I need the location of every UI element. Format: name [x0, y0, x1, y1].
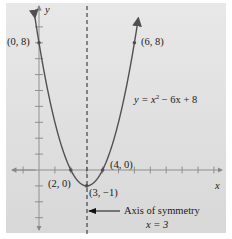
equation-label: y = x2 − 6x + 8	[133, 93, 197, 105]
point-label-2-0: (2, 0)	[48, 178, 71, 190]
data-point	[69, 168, 73, 172]
y-axis-label: y	[44, 4, 50, 15]
point-label-3-neg1: (3, −1)	[89, 187, 118, 199]
point-label-4-0: (4, 0)	[110, 159, 133, 171]
parabola-chart: y x (0, 8) (6, 8) (2, 0) (4, 0) (3, −1) …	[0, 0, 232, 239]
data-point	[101, 168, 105, 172]
data-point	[37, 41, 41, 45]
point-label-0-8: (0, 8)	[7, 36, 30, 48]
axis-of-symmetry-equation: x = 3	[145, 219, 168, 230]
data-point	[85, 184, 89, 188]
point-label-6-8: (6, 8)	[141, 36, 164, 48]
axis-of-symmetry-label: Axis of symmetry	[124, 205, 201, 216]
data-point	[133, 41, 137, 45]
x-axis-label: x	[214, 180, 220, 191]
